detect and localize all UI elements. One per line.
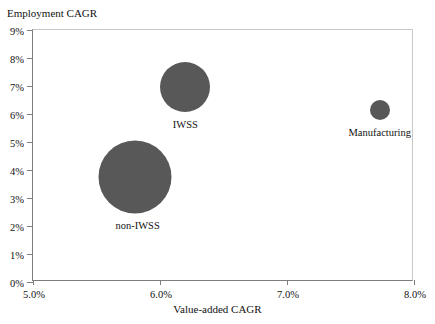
x-axis-title: Value-added CAGR [0, 303, 435, 316]
y-axis-tick-label: 3% [10, 194, 24, 205]
y-axis-tick-label: 0% [10, 278, 24, 289]
y-axis-tick-label: 8% [10, 54, 24, 65]
y-axis-tick-label: 5% [10, 138, 24, 149]
data-bubble[interactable] [370, 100, 390, 120]
y-axis-tick: 8% [27, 58, 33, 59]
x-axis-tick: 6.0% [160, 280, 161, 285]
y-axis-tick-label: 1% [10, 250, 24, 261]
x-axis-tick-label: 6.0% [150, 289, 172, 300]
data-bubble-label: Manufacturing [349, 127, 411, 139]
x-axis-tick-label: 5.0% [23, 289, 45, 300]
data-bubble[interactable] [160, 62, 210, 112]
y-axis-tick: 1% [27, 254, 33, 255]
data-bubble-label: IWSS [173, 119, 198, 131]
x-axis-tick-label: 7.0% [277, 289, 299, 300]
y-axis-tick-label: 9% [10, 26, 24, 37]
y-axis-tick: 3% [27, 198, 33, 199]
y-axis-tick-label: 4% [10, 166, 24, 177]
x-axis-tick: 8.0% [414, 280, 415, 285]
y-axis-title: Employment CAGR [7, 7, 97, 20]
bubble-chart: Employment CAGR 0%1%2%3%4%5%6%7%8%9% 5.0… [0, 0, 435, 324]
y-axis-tick: 7% [27, 86, 33, 87]
y-axis-tick-label: 7% [10, 82, 24, 93]
y-axis-tick: 9% [27, 30, 33, 31]
y-axis-tick: 2% [27, 226, 33, 227]
y-axis-tick-label: 6% [10, 110, 24, 121]
plot-area: 0%1%2%3%4%5%6%7%8%9% 5.0%6.0%7.0%8.0% no… [32, 29, 413, 281]
x-axis-tick: 7.0% [287, 280, 288, 285]
data-bubble[interactable] [98, 141, 171, 214]
y-axis-tick: 5% [27, 142, 33, 143]
y-axis-tick: 6% [27, 114, 33, 115]
x-axis-tick-label: 8.0% [404, 289, 426, 300]
x-axis-tick: 5.0% [33, 280, 34, 285]
y-axis-tick-label: 2% [10, 222, 24, 233]
data-bubble-label: non-IWSS [115, 220, 159, 232]
y-axis-tick: 4% [27, 170, 33, 171]
